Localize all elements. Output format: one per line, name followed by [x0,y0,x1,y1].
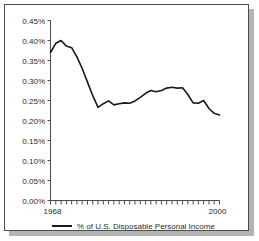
y-axis-tick-label: 0.05% [22,177,45,186]
y-axis-tick-label: 0.25% [22,97,45,106]
x-axis-end-label: 2000 [209,207,227,216]
chart-figure: 0.45%0.40%0.35%0.30%0.25%0.20%0.15%0.10%… [0,0,259,241]
axis-lines [48,21,220,205]
chart-canvas: 0.45%0.40%0.35%0.30%0.25%0.20%0.15%0.10%… [0,0,259,241]
x-axis-start-label: 1968 [44,207,62,216]
y-axis-tick-label: 0.30% [22,77,45,86]
y-axis-tick-labels: 0.45%0.40%0.35%0.30%0.25%0.20%0.15%0.10%… [22,17,45,206]
y-axis-tick-label: 0.15% [22,137,45,146]
x-axis-tick-labels: 19682000 [44,207,227,216]
chart-legend: % of U.S. Disposable Personal Income [52,222,215,231]
y-axis-tick-label: 0.20% [22,117,45,126]
y-axis-tick-label: 0.10% [22,157,45,166]
y-axis-tick-label: 0.35% [22,57,45,66]
data-series-line [51,41,220,115]
y-axis-tick-label: 0.00% [22,197,45,206]
y-axis-tick-label: 0.40% [22,37,45,46]
data-series-group [51,41,220,115]
legend-item-label: % of U.S. Disposable Personal Income [77,222,215,231]
y-axis-tick-label: 0.45% [22,17,45,26]
